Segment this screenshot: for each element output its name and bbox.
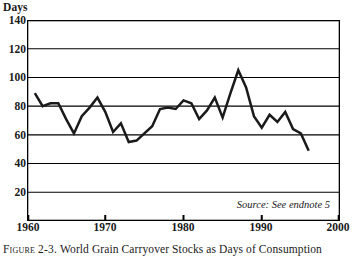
plot-background	[27, 20, 340, 221]
figure-caption: Figure 2-3. World Grain Carryover Stocks…	[3, 243, 355, 258]
y-tick-label: 80	[2, 101, 26, 113]
figure-caption-label: Figure 2-3.	[3, 243, 57, 255]
y-tick-label: 100	[2, 72, 26, 84]
x-tick-label: 1970	[82, 222, 128, 234]
y-tick-label: 20	[2, 187, 26, 199]
x-tick-label: 1980	[160, 222, 206, 234]
line-chart-canvas	[27, 20, 340, 221]
y-tick-label: 40	[2, 158, 26, 170]
figure-caption-text: World Grain Carryover Stocks as Days of …	[60, 243, 322, 255]
x-tick-label: 1990	[238, 222, 284, 234]
plot-area: Source: See endnote 5	[27, 20, 340, 221]
y-tick-label: 60	[2, 130, 26, 142]
figure-world-grain-carryover-stocks: Days 140 120 100 80 60 40 20	[0, 0, 355, 258]
x-axis-tick-labels: 1960 1970 1980 1990 2000	[0, 222, 355, 238]
y-tick-label: 120	[2, 44, 26, 56]
x-tick-label: 2000	[315, 222, 355, 234]
y-tick-label: 140	[2, 15, 26, 27]
source-note: Source: See endnote 5	[237, 199, 330, 210]
x-tick-label: 1960	[5, 222, 51, 234]
y-axis-tick-labels: 140 120 100 80 60 40 20	[0, 0, 26, 258]
